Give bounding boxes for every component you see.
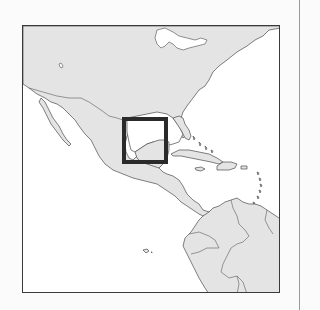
page-edge-line <box>299 0 300 310</box>
locator-map <box>22 25 280 293</box>
jamaica <box>195 167 205 171</box>
puerto-rico <box>241 166 247 169</box>
map-svg <box>23 26 280 293</box>
bahamas <box>193 136 213 153</box>
galapagos-islands <box>143 249 152 253</box>
cuba <box>171 150 223 164</box>
lesser-antilles <box>253 172 262 205</box>
